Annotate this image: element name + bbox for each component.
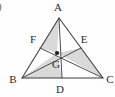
part-number-label: ) (0, 0, 2, 13)
labels-group: A B C D E F G (9, 1, 113, 95)
region-G-E-C (57, 48, 103, 78)
vertex-label-A: A (54, 1, 62, 13)
vertex-label-B: B (9, 73, 16, 85)
vertex-label-C: C (106, 73, 113, 85)
centroid-point-G-dot (55, 51, 59, 55)
triangle-medians-diagram: A B C D E F G ) (0, 0, 115, 97)
geometry-figure: A B C D E F G ) (0, 0, 115, 97)
midpoint-label-E: E (81, 33, 88, 45)
shaded-regions-group (22, 18, 103, 78)
centroid-label-G: G (52, 58, 60, 70)
midpoint-label-F: F (30, 33, 36, 45)
midpoint-label-D: D (56, 83, 64, 95)
